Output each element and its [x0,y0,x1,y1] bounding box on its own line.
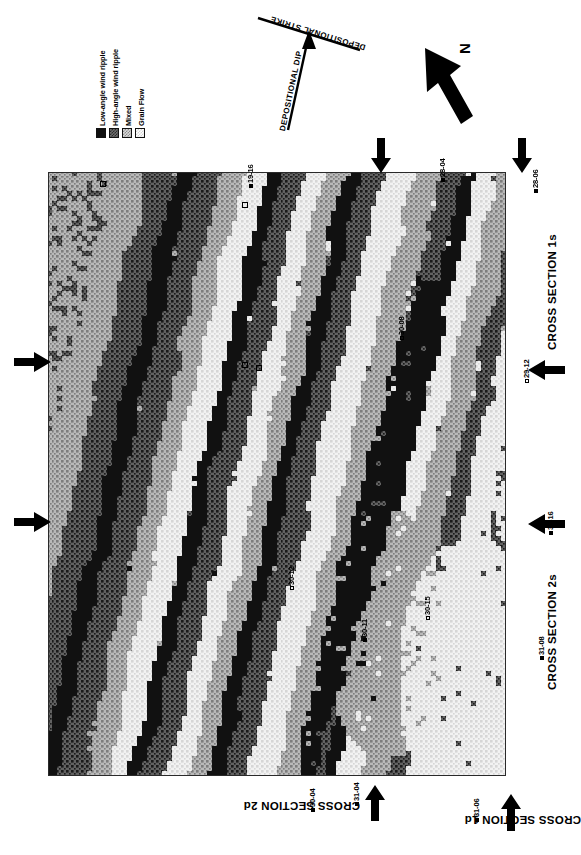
well-tick-icon [363,638,367,642]
section-arrow-bottom-2d [364,784,386,822]
well-label-30-15: 30-15 [423,597,432,620]
well-label-30-11: 30-11 [360,619,369,642]
north-arrow: N [415,30,525,140]
facies-distribution-map [48,172,506,776]
well-tick-icon [534,189,538,193]
well-tick-icon [441,178,445,182]
well-label-28-06: 28-06 [531,170,540,193]
legend-swatch-grain-flow [135,128,145,138]
legend-label-grain-flow: Grain Flow [138,89,145,126]
well-tick-icon [540,656,544,660]
well-label-29-12: 29-12 [522,360,531,383]
well-label-30-12: 30-12 [287,567,296,590]
well-label-31-04: 31-04 [352,783,361,806]
section-arrow-top-right [511,138,533,174]
legend-label-high-angle-wind-ripple: High-angle wind ripple [112,49,119,126]
well-tick-icon [355,802,359,806]
section-arrow-left-lower [14,510,52,534]
well-label-19-16: 19-16 [246,165,255,188]
section-label-cross-section-1d: CROSS SECTION 1d [464,814,581,826]
figure-root: Low-angle wind ripple High-angle wind ri… [0,0,581,855]
legend-label-low-angle-wind-ripple: Low-angle wind ripple [99,50,106,126]
north-label: N [456,43,473,54]
section-label-cross-section-2d: CROSS SECTION 2d [243,800,360,812]
legend-swatch-mixed [122,128,132,138]
well-label-30-04: 30-04 [308,789,317,812]
well-tick-icon [249,184,253,188]
legend-label-mixed: Mixed [125,106,132,126]
well-tick-icon [311,808,315,812]
section-arrow-left-upper [14,350,52,374]
section-arrow-right-29 [528,358,566,382]
legend-swatch-low-angle-wind-ripple [96,128,106,138]
well-tick-icon [290,586,294,590]
well-label-31-08: 31-08 [537,637,546,660]
section-arrow-top-left [370,138,392,174]
facies-legend: Low-angle wind ripple High-angle wind ri… [94,4,156,139]
well-tick-icon [426,616,430,620]
well-label-28-04: 28-04 [438,159,447,182]
well-tick-icon [400,336,404,340]
well-label-31-06: 31-06 [472,799,481,822]
section-label-cross-section-1s: CROSS SECTION 1s [546,234,558,350]
section-arrow-bottom-1d [500,792,522,832]
section-label-cross-section-2s: CROSS SECTION 2s [546,574,558,690]
facies-map-canvas [48,172,506,776]
well-tick-icon [549,531,553,535]
legend-swatch-high-angle-wind-ripple [109,128,119,138]
well-tick-icon [525,379,529,383]
well-tick-icon [475,818,479,822]
well-label-30-16: 30-16 [546,512,555,535]
well-label-30-08: 30-08 [397,317,406,340]
orientation-indicator: DEPOSITIONAL STRIKE DEPOSITIONAL DIP [252,2,402,134]
